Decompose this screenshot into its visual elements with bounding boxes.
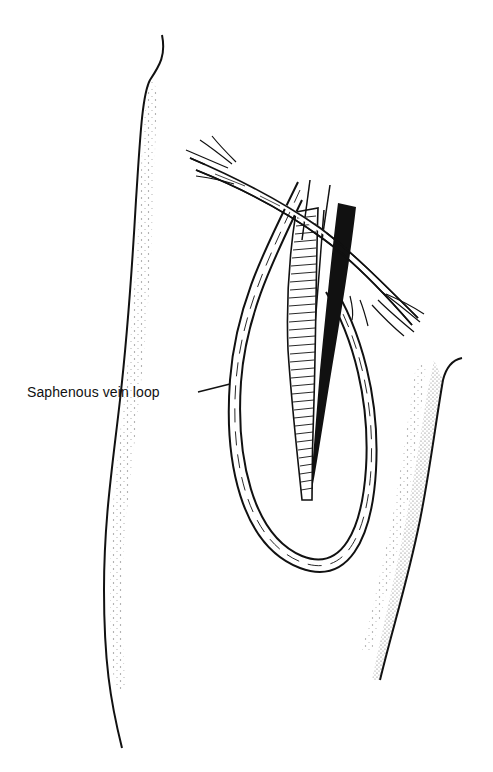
right-skin-outline: [362, 358, 462, 680]
label-saphenous-vein-loop: Saphenous vein loop: [27, 384, 160, 400]
label-leader-line: [198, 384, 230, 392]
